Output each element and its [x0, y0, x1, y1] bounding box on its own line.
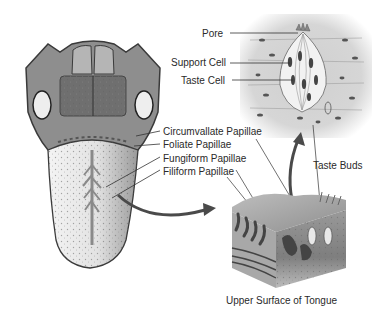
label-support-cell: Support Cell [171, 57, 226, 68]
caption-upper-surface: Upper Surface of Tongue [226, 295, 337, 306]
label-filiform-papillae: Filiform Papillae [163, 166, 234, 177]
label-pore: Pore [202, 28, 223, 39]
label-fungiform-papillae: Fungiform Papillae [163, 153, 246, 164]
label-circumvallate-papillae: Circumvallate Papillae [163, 126, 262, 137]
tongue-overview [26, 41, 160, 268]
tongue-surface-cross-section [232, 192, 346, 288]
tongue-diagram: Pore Support Cell Taste Cell Circumvalla… [0, 0, 382, 309]
label-taste-buds: Taste Buds [313, 160, 362, 171]
label-taste-cell: Taste Cell [181, 75, 225, 86]
label-foliate-papillae: Foliate Papillae [163, 139, 231, 150]
